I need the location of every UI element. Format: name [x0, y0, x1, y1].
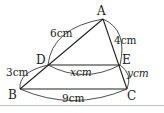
measure-ae: 4cm	[114, 34, 137, 46]
label-a: A	[96, 4, 106, 18]
divider-line	[0, 105, 164, 106]
measure-ec: ycm	[126, 67, 149, 79]
label-e: E	[122, 53, 131, 67]
measure-de: xcm	[70, 66, 92, 78]
measure-bc: 9cm	[62, 92, 85, 104]
geometry-diagram: A B C D E 6cm 3cm 4cm ycm xcm 9cm	[0, 0, 164, 113]
label-d: D	[36, 53, 46, 67]
measure-db: 3cm	[6, 66, 29, 78]
measure-ad: 6cm	[50, 27, 73, 39]
label-c: C	[127, 89, 136, 103]
label-b: B	[8, 88, 17, 102]
